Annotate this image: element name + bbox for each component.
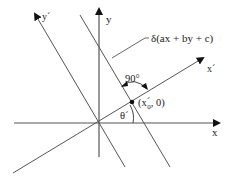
right-angle-label: 90° (125, 73, 140, 84)
theta-arc (130, 105, 134, 123)
delta-leader-line (112, 38, 149, 58)
diagram-canvas: x y x´ y´ δ(ax + by + c) 90° θ´ (x´0, 0) (0, 0, 230, 186)
right-angle-arrowhead-right (141, 83, 148, 90)
x-axis-label: x (212, 126, 218, 138)
point-label: (x´0, 0) (138, 96, 165, 111)
y-prime-axis (35, 14, 125, 167)
y-prime-axis-label: y´ (42, 11, 50, 22)
delta-line-label: δ(ax + by + c) (151, 32, 214, 45)
y-axis-label: y (106, 13, 112, 25)
x-prime-axis-label: x´ (207, 63, 215, 74)
intersection-point (130, 100, 135, 105)
x-prime-axis (13, 58, 203, 173)
theta-label: θ´ (120, 110, 129, 121)
